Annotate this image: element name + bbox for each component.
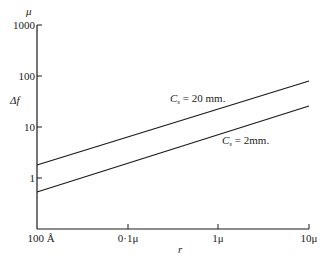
series-line-cs-2mm	[37, 106, 309, 192]
y-unit: μ	[25, 5, 32, 17]
series-label-cs-2mm: Cs = 2mm.	[222, 134, 269, 148]
svg-text:100 Å: 100 Å	[27, 232, 54, 244]
y-axis-label: Δf	[9, 94, 21, 106]
y-ticks	[37, 25, 42, 178]
x-ticks	[128, 224, 309, 229]
x-axis-label: r	[178, 243, 183, 255]
svg-text:0·1μ: 0·1μ	[118, 232, 139, 244]
svg-text:10: 10	[24, 121, 36, 133]
svg-text:1: 1	[30, 172, 36, 184]
x-tick-labels: 100 Å 0·1μ 1μ 10μ	[27, 232, 317, 244]
svg-text:10μ: 10μ	[301, 232, 318, 244]
series-label-cs-20mm: Cs = 20 mm.	[170, 92, 226, 106]
svg-text:100: 100	[19, 70, 36, 82]
svg-text:1000: 1000	[13, 19, 36, 31]
svg-text:1μ: 1μ	[212, 232, 224, 244]
chart: 1000 100 10 1 μ Δf 100 Å 0·1μ 1μ 10μ r C…	[0, 0, 327, 261]
